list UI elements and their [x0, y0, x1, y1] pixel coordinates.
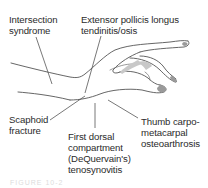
label-intersection-syndrome: Intersection syndrome: [9, 14, 57, 36]
forearm-volar-outline: [18, 92, 70, 100]
thumbnail: [157, 85, 166, 92]
label-scaphoid-fracture: Scaphoid fracture: [9, 114, 48, 136]
leader-intersection: [36, 37, 52, 84]
hand-wrist-diagram: Intersection syndrome Extensor pollicis …: [0, 0, 208, 188]
label-epl-tendinitis: Extensor pollicis longus tendinitis/osis: [81, 14, 179, 36]
label-dequervain: First dorsal compartment (DeQuervain's) …: [68, 131, 131, 175]
leader-epl: [85, 36, 101, 93]
figure-caption: FIGURE 10-2: [10, 179, 63, 186]
leader-cmc: [108, 100, 138, 118]
thumb-outline: [70, 85, 166, 100]
label-thumb-cmc-oa: Thumb carpo- metacarpal osteoarthrosis: [141, 116, 200, 149]
